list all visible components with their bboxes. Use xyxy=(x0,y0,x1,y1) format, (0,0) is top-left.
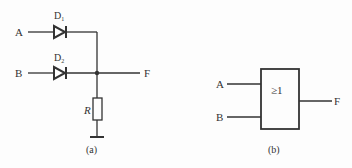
caption-b: (b) xyxy=(268,144,280,156)
gate-symbol-label: ≥1 xyxy=(271,84,283,96)
diode-d2-label: D2 xyxy=(54,52,64,64)
diode-d1-label: D1 xyxy=(54,10,64,22)
diode-d2 xyxy=(54,67,66,79)
resistor-body xyxy=(93,98,102,120)
output-f-label: F xyxy=(144,67,150,79)
gate-box xyxy=(261,69,299,129)
gate-input-b-label: B xyxy=(216,111,223,123)
or-gate-figure: A B D1 D2 F R (a) A B ≥1 F (b) xyxy=(0,0,352,168)
diagram-svg: A B D1 D2 F R (a) A B ≥1 F (b) xyxy=(0,0,352,168)
junction-dot xyxy=(95,71,99,75)
input-a-label: A xyxy=(15,26,23,38)
diode-d1 xyxy=(54,26,66,38)
diode-or-circuit xyxy=(28,32,140,137)
resistor-label: R xyxy=(83,104,91,116)
gate-output-f-label: F xyxy=(334,95,340,107)
input-b-label: B xyxy=(15,67,22,79)
gate-input-a-label: A xyxy=(216,78,224,90)
or-gate-symbol xyxy=(227,69,332,129)
caption-a: (a) xyxy=(86,144,97,156)
